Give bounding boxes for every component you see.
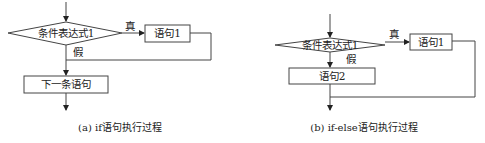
condition-label: 条件表达式1 — [38, 27, 95, 39]
statement1-label: 语句1 — [154, 27, 181, 39]
statement1-label: 语句1 — [418, 36, 445, 48]
false-label: 假 — [73, 46, 84, 58]
true-label: 真 — [389, 28, 399, 40]
if-flowchart: 条件表达式1 真 语句1 假 下一条语句 (a) if语句执行过程 — [8, 2, 211, 133]
flowcharts: 条件表达式1 真 语句1 假 下一条语句 (a) if语句执行过程 条件表达式1… — [0, 0, 485, 143]
caption-a: (a) if语句执行过程 — [78, 121, 162, 133]
caption-b: (b) if-else语句执行过程 — [310, 121, 417, 133]
true-label: 真 — [125, 20, 135, 32]
false-label: 假 — [346, 53, 357, 65]
if-else-flowchart: 条件表达式1 真 语句1 假 语句2 (b) if-else语句执行过程 — [275, 14, 475, 133]
statement2-label: 语句2 — [319, 70, 346, 82]
next-statement-label: 下一条语句 — [41, 78, 91, 90]
condition-label: 条件表达式1 — [302, 39, 359, 51]
